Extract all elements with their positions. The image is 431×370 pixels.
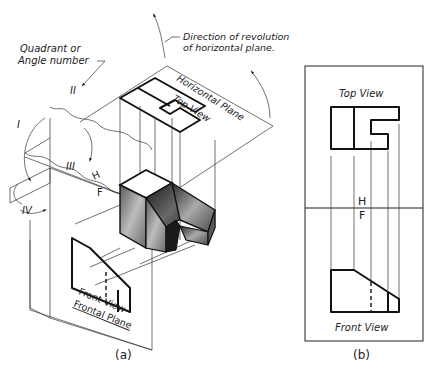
fold-label-h-b: H: [358, 195, 366, 208]
quadrant-arc-left: [24, 118, 45, 180]
quadrant-label-line2: Angle number: [17, 55, 90, 66]
fold-label-h-a: H: [90, 169, 101, 182]
quadrant-arc-right: [84, 128, 92, 160]
figure-b: Top View Front View H F (b): [305, 66, 423, 362]
figure-a: Quadrant or Angle number Direction of re…: [10, 15, 289, 362]
caption-b: (b): [353, 348, 370, 362]
top-view-label-b: Top View: [339, 88, 384, 99]
top-view-b-outline: [331, 107, 399, 149]
quadrant-4: IV: [22, 205, 33, 216]
revolution-arc-left: [154, 15, 165, 58]
caption-a: (a): [115, 348, 132, 362]
revolution-arc-right: [252, 72, 270, 118]
quadrant-label-line1: Quadrant or: [20, 43, 81, 54]
revolution-label-line1: Direction of revolution: [183, 31, 289, 42]
front-view-label-b: Front View: [335, 322, 389, 333]
quadrant-1: I: [17, 119, 20, 130]
revolution-label-line2: of horizontal plane.: [183, 42, 275, 53]
quadrant-arc-lower: [14, 184, 22, 204]
fold-label-f-a: F: [97, 187, 103, 198]
quadrant-2: II: [70, 85, 76, 96]
revolution-leader: [165, 37, 180, 42]
horizontal-plane-break-2: [25, 153, 126, 198]
quadrant-3: III: [66, 161, 75, 172]
object-3d: [120, 170, 215, 252]
plane-intersection-edge: [25, 138, 50, 153]
top-view-inner-line: [138, 88, 170, 106]
fold-label-f-b: F: [359, 209, 365, 222]
projection-diagram: Quadrant or Angle number Direction of re…: [0, 0, 431, 370]
frontal-plane: [10, 168, 50, 203]
horizontal-plane-break: [50, 107, 152, 150]
